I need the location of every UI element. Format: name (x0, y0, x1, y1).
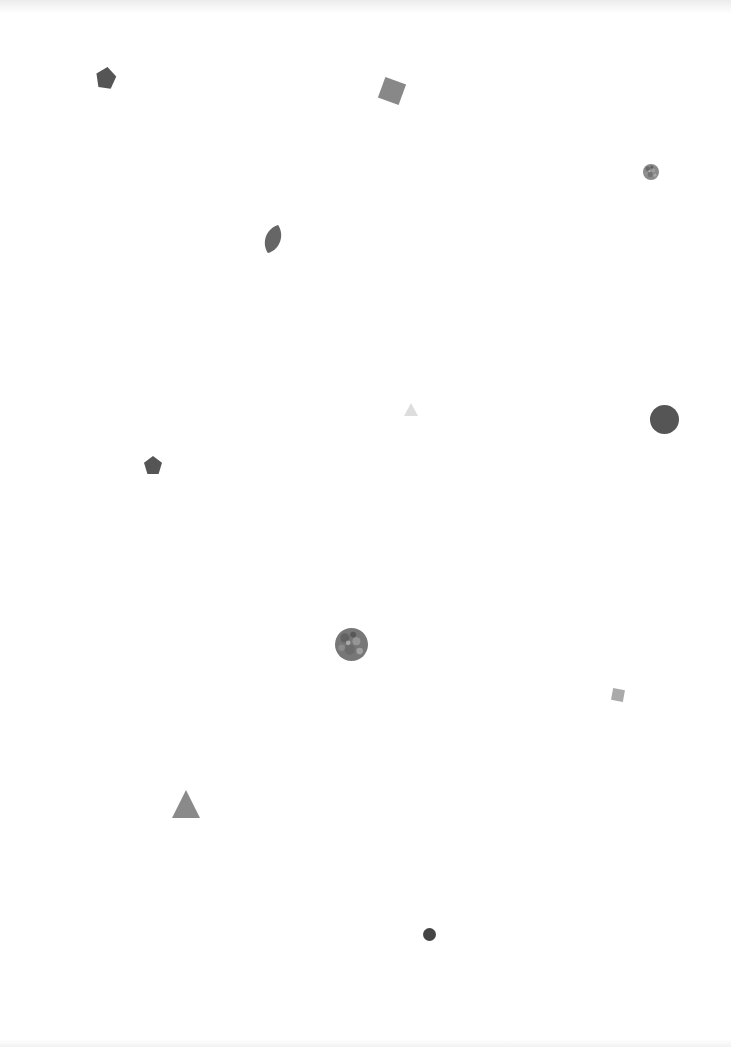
leaf-shape (258, 221, 287, 256)
bottom-edge-gradient (0, 1039, 731, 1047)
square-shape (611, 688, 625, 702)
circle-shape (643, 164, 659, 180)
triangle-shape (172, 790, 200, 818)
pentagon-shape (95, 66, 118, 90)
circle-shape (335, 628, 368, 661)
circle-shape (650, 405, 679, 434)
circle-shape (423, 928, 436, 941)
top-edge-gradient (0, 0, 731, 14)
pentagon-shape (144, 456, 162, 474)
square-shape (378, 77, 406, 105)
triangle-shape (404, 403, 418, 416)
